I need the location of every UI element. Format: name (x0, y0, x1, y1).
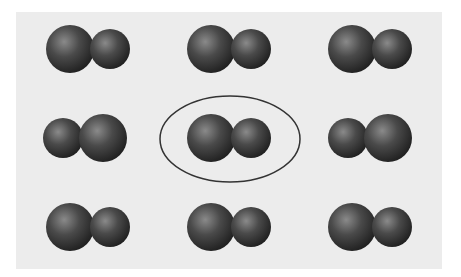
molecule-grid (43, 25, 412, 251)
large-atom-sphere (328, 25, 376, 73)
large-atom-sphere (187, 114, 235, 162)
small-atom-sphere (43, 118, 83, 158)
small-atom-sphere (372, 29, 412, 69)
large-atom-sphere (364, 114, 412, 162)
large-atom-sphere (328, 203, 376, 251)
molecule-diagram (0, 0, 461, 277)
large-atom-sphere (187, 25, 235, 73)
large-atom-sphere (187, 203, 235, 251)
small-atom-sphere (231, 118, 271, 158)
small-atom-sphere (90, 207, 130, 247)
small-atom-sphere (90, 29, 130, 69)
large-atom-sphere (79, 114, 127, 162)
small-atom-sphere (328, 118, 368, 158)
small-atom-sphere (231, 29, 271, 69)
small-atom-sphere (372, 207, 412, 247)
large-atom-sphere (46, 25, 94, 73)
large-atom-sphere (46, 203, 94, 251)
small-atom-sphere (231, 207, 271, 247)
